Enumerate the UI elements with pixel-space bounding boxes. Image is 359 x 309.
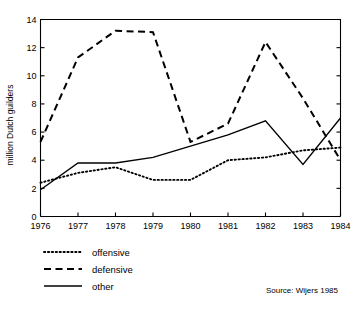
y-tick-label: 12 [26,43,36,53]
y-tick-label: 2 [31,184,36,194]
x-axis-ticks: 197619771978197919801981198219831984 [30,213,350,231]
x-tick-label: 1982 [255,221,275,231]
x-tick-label: 1979 [143,221,163,231]
legend-label-other: other [92,281,114,292]
y-tick-label: 8 [31,99,36,109]
y-tick-label: 14 [26,15,36,25]
x-tick-label: 1976 [30,221,50,231]
x-tick-label: 1983 [293,221,313,231]
y-tick-label: 6 [31,127,36,137]
x-tick-label: 1977 [68,221,88,231]
y-axis-title: million Dutch guilders [5,85,15,166]
source-annotation: Source: Wijers 1985 [266,286,339,295]
x-tick-label: 1978 [105,221,125,231]
x-tick-label: 1980 [180,221,200,231]
x-tick-label: 1981 [218,221,238,231]
y-tick-label: 4 [31,155,36,165]
y-tick-label: 10 [26,71,36,81]
chart-figure: 02468101214 1976197719781979198019811982… [0,0,359,309]
x-tick-label: 1984 [330,221,350,231]
legend-label-defensive: defensive [92,264,133,275]
legend-label-offensive: offensive [92,247,130,258]
figure-background [0,0,359,309]
